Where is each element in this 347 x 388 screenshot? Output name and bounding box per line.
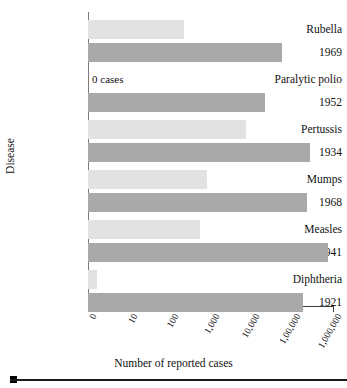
zero-cases-annotation: 0 cases <box>92 70 123 89</box>
bar-recent <box>88 170 207 189</box>
bar-peak <box>88 293 303 312</box>
bar-peak <box>88 143 310 162</box>
bar-recent <box>88 270 97 289</box>
footer-divider <box>10 379 347 381</box>
bar-recent <box>88 120 246 139</box>
y-axis-title: Disease <box>4 138 16 174</box>
bar-recent <box>88 20 184 39</box>
plot-area: 0 cases <box>88 12 333 306</box>
bar-peak <box>88 93 265 112</box>
bar-peak <box>88 243 328 262</box>
bar-recent <box>88 220 200 239</box>
bar-peak <box>88 193 307 212</box>
chart-figure: 0101001,00010,0001,00,0001,000,000 Rubel… <box>0 0 347 388</box>
x-axis-title: Number of reported cases <box>0 357 347 369</box>
bar-peak <box>88 43 282 62</box>
